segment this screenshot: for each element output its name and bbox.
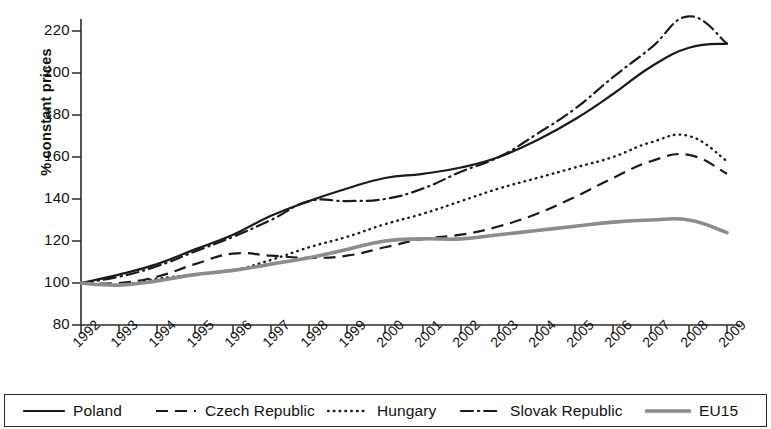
data-series-group (81, 16, 727, 285)
legend-swatch-icon (23, 402, 65, 420)
legend-item-slovak-republic[interactable]: Slovak Republic (460, 402, 623, 420)
series-line-poland (81, 44, 727, 283)
legend-item-hungary[interactable]: Hungary (327, 402, 436, 420)
legend-label: Slovak Republic (510, 402, 623, 420)
y-axis-tick-label: 200 (20, 63, 70, 80)
line-chart-figure: % constant prices 8010012014016018020022… (0, 0, 771, 429)
plot-area (0, 0, 771, 429)
y-axis-tick-label: 120 (20, 231, 70, 248)
legend-item-eu15[interactable]: EU15 (645, 402, 738, 420)
legend-swatch-icon (645, 402, 691, 420)
series-line-hungary (81, 135, 727, 286)
legend-label: EU15 (699, 402, 738, 420)
legend-swatch-icon (460, 402, 502, 420)
chart-legend: PolandCzech RepublicHungarySlovak Republ… (4, 394, 767, 427)
legend-item-czech-republic[interactable]: Czech Republic (155, 402, 315, 420)
legend-label: Czech Republic (205, 402, 315, 420)
legend-swatch-icon (155, 402, 197, 420)
y-axis-tick-label: 220 (20, 21, 70, 38)
legend-label: Hungary (377, 402, 436, 420)
series-line-eu15 (81, 219, 727, 286)
legend-item-poland[interactable]: Poland (23, 402, 122, 420)
legend-swatch-icon (327, 402, 369, 420)
legend-label: Poland (73, 402, 122, 420)
y-axis-tick-label: 180 (20, 105, 70, 122)
y-axis-tick-label: 80 (20, 315, 70, 332)
y-axis-tick-label: 100 (20, 273, 70, 290)
y-axis-tick-label: 140 (20, 189, 70, 206)
y-axis-tick-label: 160 (20, 147, 70, 164)
